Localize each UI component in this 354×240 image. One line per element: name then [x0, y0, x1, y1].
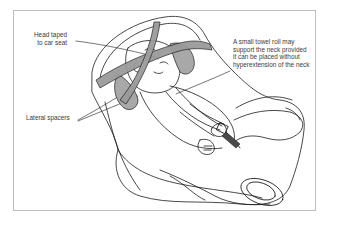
- label-towel-roll: A small towel roll may support the neck …: [233, 38, 309, 68]
- label-head-taped-line-1: Head taped: [34, 31, 67, 39]
- label-head-taped-line-2: to car seat: [34, 39, 67, 47]
- label-lateral-spacers: Lateral spacers: [26, 114, 70, 122]
- seat-handle: [237, 173, 287, 211]
- label-towel-roll-line-1: A small towel roll may: [233, 38, 309, 46]
- label-towel-roll-line-3: it can be placed without: [233, 53, 309, 61]
- label-lateral-spacers-line-1: Lateral spacers: [26, 114, 70, 122]
- infant-legs: [234, 110, 303, 142]
- label-towel-roll-line-4: hyperextension of the neck: [233, 61, 309, 69]
- label-towel-roll-line-2: support the neck provided: [233, 46, 309, 54]
- leader-towel-roll: [176, 71, 230, 94]
- leader-head-taped: [76, 41, 152, 56]
- label-head-taped: Head taped to car seat: [34, 31, 67, 46]
